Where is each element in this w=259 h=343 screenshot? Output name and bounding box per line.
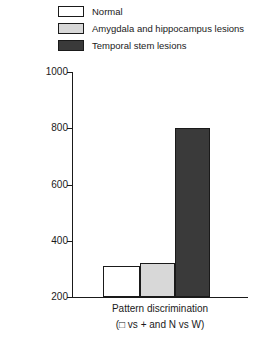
x-axis-label-main: Pattern discrimination	[72, 302, 248, 315]
y-tick-label-600: 600	[51, 180, 68, 190]
bar-amygdala-hippocampus	[140, 263, 175, 297]
legend-swatch-normal	[58, 6, 84, 17]
x-axis-caption: Pattern discrimination (□ vs + and N vs …	[72, 302, 248, 331]
legend-swatch-temporal	[58, 40, 84, 51]
y-tick-label-200: 200	[51, 292, 68, 302]
bar-normal	[103, 266, 140, 297]
y-tick-label-400: 400	[51, 236, 68, 246]
plot-area: 1000 800 600 400 200	[72, 72, 232, 297]
x-axis-label-sub: (□ vs + and N vs W)	[72, 318, 248, 331]
legend-swatch-amygdala	[58, 23, 84, 34]
legend-item-temporal-stem: Temporal stem lesions	[58, 38, 258, 53]
chart-legend: Normal Amygdala and hippocampus lesions …	[58, 4, 258, 55]
bar-chart-figure: Normal Amygdala and hippocampus lesions …	[0, 0, 259, 343]
y-tick-label-800: 800	[51, 123, 68, 133]
legend-label-temporal: Temporal stem lesions	[92, 40, 187, 51]
legend-item-normal: Normal	[58, 4, 258, 19]
y-tick-label-1000: 1000	[46, 67, 68, 77]
x-axis-line	[72, 297, 248, 298]
y-axis-line	[72, 72, 73, 297]
legend-label-normal: Normal	[92, 6, 123, 17]
legend-item-amygdala-hippocampus: Amygdala and hippocampus lesions	[58, 21, 258, 36]
bar-temporal-stem	[175, 128, 210, 297]
legend-label-amygdala: Amygdala and hippocampus lesions	[92, 23, 244, 34]
